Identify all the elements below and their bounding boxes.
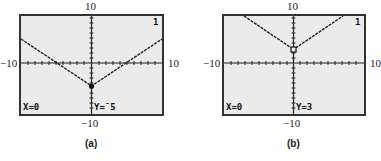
- trace-y-readout: Y=3: [296, 102, 312, 112]
- x-max-label: 10: [168, 57, 179, 69]
- x-max-label: 10: [370, 57, 381, 69]
- graph-plot: [0, 0, 190, 161]
- open-vertex-point: [291, 47, 296, 52]
- vertex-point: [89, 83, 94, 88]
- x-min-label: −10: [203, 57, 220, 69]
- graph-plot: [190, 0, 379, 161]
- corner-indicator: 1: [355, 17, 360, 27]
- x-min-label: −10: [0, 57, 17, 69]
- y-min-label: −10: [81, 117, 98, 129]
- corner-indicator: 1: [153, 17, 158, 27]
- graph-panel-a: 10 1 −10 10 X=0 Y=¯5 −10 (a): [0, 0, 190, 161]
- panel-caption: (b): [287, 138, 300, 149]
- graph-panel-b: 10 1 −10 10 X=0 Y=3 −10 (b): [190, 0, 379, 161]
- y-min-label: −10: [283, 117, 300, 129]
- trace-x-readout: X=0: [226, 102, 242, 112]
- trace-x-readout: X=0: [23, 102, 39, 112]
- panel-caption: (a): [85, 138, 97, 149]
- trace-y-readout: Y=¯5: [94, 102, 116, 112]
